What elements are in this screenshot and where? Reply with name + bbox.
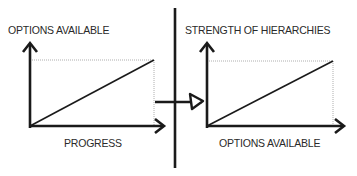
left-y-axis-label: OPTIONS AVAILABLE [8, 24, 109, 36]
transition-arrow-icon [155, 94, 203, 109]
right-y-axis-label: STRENGTH OF HIERARCHIES [185, 24, 330, 36]
right-x-axis-label: OPTIONS AVAILABLE [219, 137, 320, 149]
left-x-axis-label: PROGRESS [64, 137, 122, 149]
right-chart [200, 43, 344, 133]
right-trend-line [207, 61, 333, 126]
left-chart [23, 43, 164, 133]
left-trend-line [30, 60, 154, 126]
